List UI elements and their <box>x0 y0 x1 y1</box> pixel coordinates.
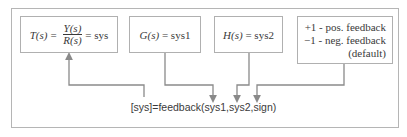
arrow-sign <box>257 64 344 99</box>
plant-box: G(s) = sys1 <box>129 16 201 53</box>
feedback-rhs: = sys2 <box>245 29 274 41</box>
arrow-to-sys <box>69 56 144 97</box>
closed-loop-box: T(s) = Y(s) R(s) = sys <box>20 16 118 53</box>
sign-box: +1 - pos. feedback −1 - neg. feedback (d… <box>297 16 393 64</box>
tf-rhs: = sys <box>85 29 108 41</box>
feedback-box: H(s) = sys2 <box>214 16 283 53</box>
arrow-sys2 <box>237 52 249 99</box>
sign-positive: +1 - pos. feedback <box>305 21 386 34</box>
tf-lhs: T(s) <box>30 29 48 41</box>
equals-sign: = <box>50 29 56 41</box>
arrow-sys1 <box>165 52 213 99</box>
fraction: Y(s) R(s) <box>63 23 83 46</box>
plant-rhs: = sys1 <box>162 29 191 41</box>
sign-default: (default) <box>348 47 386 60</box>
feedback-fn: H(s) <box>223 29 243 41</box>
denominator: R(s) <box>63 35 81 46</box>
plant-fn: G(s) <box>140 29 160 41</box>
sign-negative: −1 - neg. feedback <box>304 34 386 47</box>
feedback-command: [sys]=feedback(sys1,sys2,sign) <box>0 101 407 113</box>
